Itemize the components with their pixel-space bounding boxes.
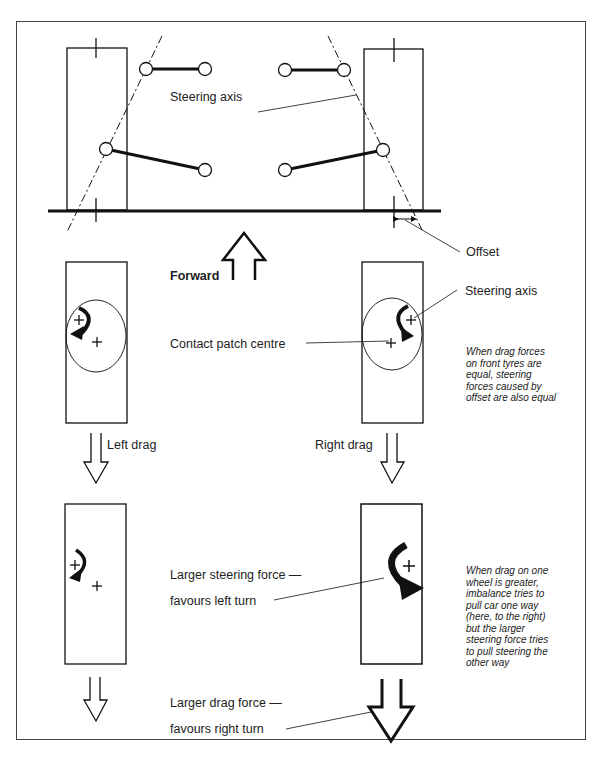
right-drag-label: Right drag bbox=[315, 438, 373, 452]
drag-force-label-1: Larger drag force — bbox=[170, 696, 282, 710]
middle-steering-axis-label: Steering axis bbox=[465, 284, 537, 298]
left-drag-arrow-icon bbox=[84, 433, 108, 483]
contact-patch-label: Contact patch centre bbox=[170, 337, 285, 351]
steering-force-label-1: Larger steering force — bbox=[170, 568, 301, 582]
forward-label: Forward bbox=[170, 269, 219, 283]
right-drag-arrow-icon bbox=[381, 433, 404, 483]
unequal-drag-note: When drag on one wheel is greater, imbal… bbox=[466, 565, 576, 669]
left-drag-label: Left drag bbox=[107, 438, 156, 452]
top-left-wheel bbox=[67, 48, 127, 210]
equal-drag-note: When drag forces on front tyres are equa… bbox=[466, 346, 576, 404]
offset-label: Offset bbox=[466, 245, 499, 259]
forward-arrow-icon bbox=[223, 233, 265, 280]
large-drag-arrow-icon bbox=[369, 679, 413, 741]
top-steering-axis-label: Steering axis bbox=[170, 90, 242, 104]
right-contact-patch bbox=[362, 298, 422, 370]
drag-force-label-2: favours right turn bbox=[170, 722, 264, 736]
steering-force-label-2: favours left turn bbox=[170, 594, 256, 608]
bottom-left-wheel bbox=[65, 504, 126, 664]
